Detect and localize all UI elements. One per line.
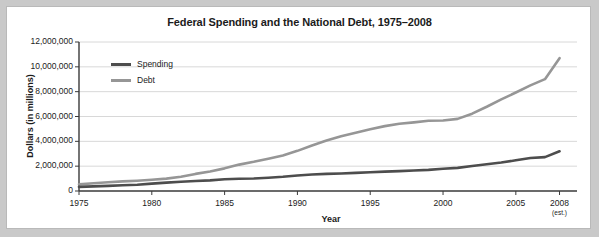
y-tick-label: 10,000,000: [11, 61, 73, 71]
chart-svg: [7, 7, 592, 230]
y-axis-title: Dollars (in millions): [25, 51, 35, 181]
y-tick-label: 12,000,000: [11, 36, 73, 46]
x-tick-label: 1975: [56, 198, 102, 208]
x-tick-label: 2008: [537, 198, 583, 208]
y-tick-label: 4,000,000: [11, 135, 73, 145]
legend-label: Spending: [137, 59, 173, 69]
x-tick-label: 1980: [129, 198, 175, 208]
y-tick-label: 2,000,000: [11, 160, 73, 170]
series-line-spending: [79, 151, 560, 187]
x-tick-label: 1995: [347, 198, 393, 208]
x-axis-title: Year: [79, 214, 583, 224]
x-tick-label: 1990: [274, 198, 320, 208]
y-tick-label: 8,000,000: [11, 86, 73, 96]
y-tick-label: 0: [11, 185, 73, 195]
chart-plot-area: 02,000,0004,000,0006,000,0008,000,00010,…: [7, 7, 592, 230]
figure-card: Federal Spending and the National Debt, …: [6, 6, 591, 229]
x-tick-label: 1985: [202, 198, 248, 208]
x-tick-label: 2000: [420, 198, 466, 208]
x-tick-label: 2005: [493, 198, 539, 208]
y-tick-label: 6,000,000: [11, 111, 73, 121]
legend-swatch-icon: [111, 63, 131, 66]
legend-swatch-icon: [111, 79, 131, 82]
legend-label: Debt: [137, 75, 155, 85]
